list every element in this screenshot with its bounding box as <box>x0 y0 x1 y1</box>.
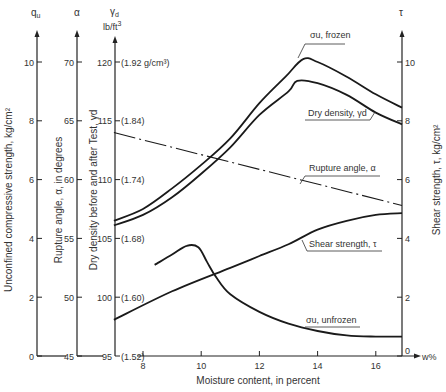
series-layer <box>114 58 402 337</box>
tau-tick-label: 6 <box>405 175 410 185</box>
series-shear-strength <box>114 213 402 320</box>
qu-axis-title: Unconfined compressive strength, kg/cm² <box>3 107 14 292</box>
qu-tick-label: 8 <box>29 116 34 126</box>
shear-annotation: Shear strength, τ <box>309 239 377 249</box>
qu-tick-label: 10 <box>24 58 34 68</box>
arrow-right-icon <box>414 354 421 359</box>
x-tick-label: 16 <box>371 361 381 371</box>
arrow-up-icon <box>113 36 118 43</box>
alpha-tick-label: 50 <box>64 293 74 303</box>
x-tick-label: 10 <box>196 361 206 371</box>
frozen-annotation: σu, frozen <box>310 30 351 40</box>
x-tick-label: 14 <box>313 361 323 371</box>
arrow-up-icon <box>35 30 40 37</box>
chart: 024681045505560657095(1.52)100(1.60)105(… <box>0 0 446 392</box>
series-dry-density-d <box>114 80 402 225</box>
gamma-secondary-tick-label: (1.74) <box>121 175 145 185</box>
arrow-up-icon <box>75 30 80 37</box>
axes-layer: 024681045505560657095(1.52)100(1.60)105(… <box>24 30 421 371</box>
qu-axis-header: qu <box>31 7 41 19</box>
gamma-secondary-tick-label: (1.60) <box>121 293 145 303</box>
qu-tick-label: 2 <box>29 293 34 303</box>
gamma-secondary-tick-label: (1.84) <box>121 116 145 126</box>
unfrozen-annotation: σu, unfrozen <box>306 315 357 325</box>
density-leader-tick <box>370 112 375 120</box>
density-annotation: Dry density, γd <box>308 108 367 118</box>
gamma_d-tick-label: 115 <box>98 116 112 126</box>
arrow-up-icon <box>400 30 405 37</box>
gamma-secondary-tick-label: (1.68) <box>121 234 145 244</box>
gamma_d-tick-label: 120 <box>97 58 112 68</box>
gamma_d-tick-label: 110 <box>98 175 112 185</box>
gamma-axis-title: Dry density before and after Test, γd <box>88 110 99 270</box>
tau-tick-label: 2 <box>405 293 410 303</box>
alpha-tick-label: 70 <box>64 58 74 68</box>
shear-leader-tick <box>302 240 307 251</box>
gamma-axis-unit: lb/ft3 <box>103 20 122 32</box>
qu-tick-label: 6 <box>29 175 34 185</box>
x-tick-label: 8 <box>140 361 145 371</box>
tau-axis-title: Shear strength, τ, kg/cm² <box>431 124 442 235</box>
alpha-tick-label: 65 <box>64 116 74 126</box>
x-axis-end-label: w% <box>421 352 437 362</box>
series-u-frozen <box>114 58 402 221</box>
tau-tick-label: 10 <box>405 58 415 68</box>
series-u-unfrozen <box>155 245 402 337</box>
x-tick-label: 12 <box>254 361 264 371</box>
gamma-axis-header: γd <box>110 6 119 18</box>
gamma-secondary-tick-label: (1.92 g/cm³) <box>121 58 170 68</box>
tau-tick-label: 0 <box>405 346 410 356</box>
qu-tick-label: 0 <box>29 352 34 362</box>
tau-tick-label: 4 <box>405 234 410 244</box>
alpha-tick-label: 55 <box>64 234 74 244</box>
tau-axis-header: τ <box>399 7 403 18</box>
gamma_d-tick-label: 105 <box>97 234 112 244</box>
rupture-annotation: Rupture angle, α <box>309 163 376 173</box>
alpha-axis-header: α <box>74 7 80 18</box>
alpha-axis-title: Rupture angle, α, in degrees <box>53 137 64 263</box>
alpha-tick-label: 60 <box>64 175 74 185</box>
frozen-leader-tick <box>298 44 305 58</box>
gamma_d-tick-label: 95 <box>102 352 112 362</box>
x-axis-title: Moisture content, in percent <box>196 375 320 386</box>
qu-tick-label: 4 <box>29 234 34 244</box>
tau-tick-label: 8 <box>405 116 410 126</box>
gamma_d-tick-label: 100 <box>97 293 112 303</box>
